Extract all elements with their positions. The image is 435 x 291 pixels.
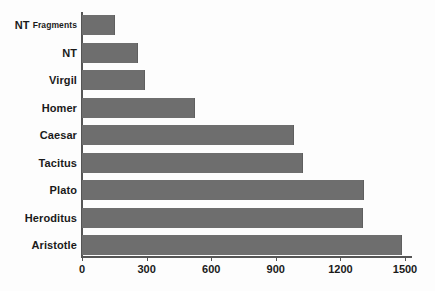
y-axis-label-main: Virgil [49,74,77,86]
y-axis-label: Heroditus [0,208,77,228]
bar-row [82,235,405,255]
bar [82,180,364,200]
bar-row [82,125,405,145]
y-axis-label: Tacitus [0,153,77,173]
plot-area [82,12,405,257]
x-axis-tick-mark [147,256,148,261]
x-axis-tick-mark [340,256,341,261]
y-axis-label-main: NT [62,47,77,59]
y-axis-label-sub: Fragments [33,20,77,30]
y-axis-label-main: Homer [42,102,77,114]
x-axis-tick-label: 300 [137,263,155,275]
bar-rows [82,12,405,257]
y-axis-label-main: Caesar [40,129,77,141]
x-axis-tick-label: 1500 [393,263,417,275]
x-axis-tick-mark [211,256,212,261]
y-axis-label-main: Heroditus [25,212,77,224]
bar-row [82,70,405,90]
y-axis-label: Homer [0,98,77,118]
y-axis-label: NTFragments [0,15,77,35]
bar [82,235,402,255]
x-axis-tick-mark [405,256,406,261]
y-axis-label: Virgil [0,70,77,90]
x-axis-tick-mark [276,256,277,261]
y-axis-label-main: Aristotle [31,239,77,251]
bar [82,98,195,118]
bar-row [82,153,405,173]
bar [82,70,145,90]
x-axis-tick-label: 600 [202,263,220,275]
y-axis-label: NT [0,43,77,63]
bar [82,125,294,145]
bar [82,15,115,35]
bar [82,153,303,173]
bar [82,208,363,228]
x-axis-tick-mark [82,256,83,261]
y-axis-label-main: Tacitus [39,157,77,169]
bar-row [82,15,405,35]
bar-row [82,208,405,228]
bar-row [82,43,405,63]
y-axis-label: Aristotle [0,235,77,255]
y-axis-label: Plato [0,180,77,200]
bar-chart: NTFragmentsNTVirgilHomerCaesarTacitusPla… [0,0,435,291]
bar-row [82,98,405,118]
y-axis-label-main: Plato [50,184,77,196]
x-axis-tick-label: 900 [267,263,285,275]
bar-row [82,180,405,200]
x-axis-ticks: 030060090012001500 [0,256,435,286]
bar [82,43,138,63]
y-axis-labels: NTFragmentsNTVirgilHomerCaesarTacitusPla… [0,12,77,257]
x-axis-tick-label: 0 [79,263,85,275]
y-axis-label: Caesar [0,125,77,145]
x-axis-tick-label: 1200 [328,263,352,275]
y-axis-label-main: NT [15,19,30,31]
